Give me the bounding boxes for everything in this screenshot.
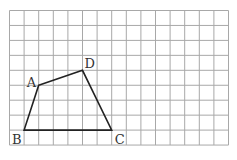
vertex-label-d: D bbox=[85, 56, 95, 71]
grid-diagram: ADCB bbox=[0, 0, 237, 160]
vertex-label-c: C bbox=[115, 132, 125, 147]
square-grid bbox=[10, 11, 229, 146]
vertex-label-a: A bbox=[26, 75, 37, 90]
vertex-label-b: B bbox=[12, 132, 22, 147]
